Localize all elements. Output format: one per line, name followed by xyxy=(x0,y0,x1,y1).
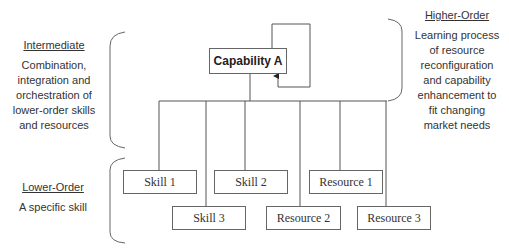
higher-line: reconfiguration xyxy=(407,58,507,73)
resource-2-node: Resource 2 xyxy=(266,206,341,230)
lower-order-title: Lower-Order xyxy=(10,180,96,195)
higher-line: fit changing xyxy=(407,103,507,118)
resource-1-node: Resource 1 xyxy=(309,170,383,194)
intermediate-line: lower-order skills xyxy=(5,103,103,118)
higher-line: Learning process xyxy=(407,28,507,43)
intermediate-label: Intermediate Combination, integration an… xyxy=(5,38,103,133)
intermediate-brace xyxy=(110,32,125,148)
intermediate-line: integration and xyxy=(5,73,103,88)
skill-3-node: Skill 3 xyxy=(172,206,246,230)
higher-line: and capability xyxy=(407,73,507,88)
higher-line: enhancement to xyxy=(407,88,507,103)
intermediate-line: and resources xyxy=(5,118,103,133)
resource-3-node: Resource 3 xyxy=(357,206,431,230)
lower-order-description: A specific skill xyxy=(10,200,96,215)
intermediate-title: Intermediate xyxy=(5,38,103,53)
higher-order-title: Higher-Order xyxy=(407,8,507,23)
skill-2-node: Skill 2 xyxy=(214,170,288,194)
higher-line: market needs xyxy=(407,118,507,133)
higher-brace xyxy=(388,19,402,101)
intermediate-line: orchestration of xyxy=(5,88,103,103)
intermediate-line: Combination, xyxy=(5,58,103,73)
higher-order-label: Higher-Order Learning process of resourc… xyxy=(407,8,507,133)
skill-1-node: Skill 1 xyxy=(123,170,197,194)
capability-a-node: Capability A xyxy=(209,48,287,74)
lower-order-label: Lower-Order A specific skill xyxy=(10,180,96,215)
higher-line: of resource xyxy=(407,43,507,58)
